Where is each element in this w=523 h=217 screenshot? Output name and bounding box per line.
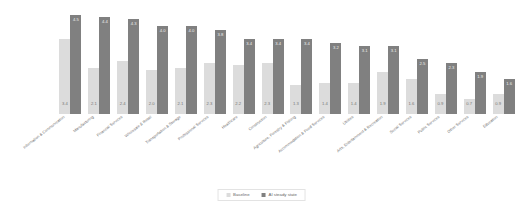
- bar-baseline[interactable]: 2.1: [175, 68, 186, 114]
- bar-value-label: 0.9: [495, 102, 501, 106]
- bar-group: 2.14.0: [172, 8, 201, 114]
- bar-ai-steady-state[interactable]: 1.9: [475, 72, 486, 114]
- bar-wrapper: 0.9: [493, 8, 504, 114]
- bar-ai-steady-state[interactable]: 4.0: [157, 26, 168, 114]
- bar-value-label: 3.4: [275, 42, 281, 46]
- bar-value-label: 1.6: [506, 82, 512, 86]
- bar-wrapper: 2.5: [417, 8, 428, 114]
- bar-value-label: 4.0: [160, 29, 166, 33]
- bar-baseline[interactable]: 2.3: [262, 63, 273, 114]
- bar-ai-steady-state[interactable]: 3.2: [330, 43, 341, 114]
- grouped-bar-chart: 3.44.52.14.42.44.32.04.02.14.02.33.82.23…: [0, 0, 523, 217]
- bar-baseline[interactable]: 0.7: [464, 99, 475, 114]
- bar-value-label: 0.9: [437, 102, 443, 106]
- bar-group: 2.44.3: [114, 8, 143, 114]
- bar-baseline[interactable]: 2.1: [88, 68, 99, 114]
- bar-wrapper: 4.0: [186, 8, 197, 114]
- bar-baseline[interactable]: 3.4: [59, 39, 70, 114]
- bar-wrapper: 2.2: [233, 8, 244, 114]
- bar-value-label: 4.0: [189, 29, 195, 33]
- bar-ai-steady-state[interactable]: 3.4: [273, 39, 284, 114]
- bar-ai-steady-state[interactable]: 4.4: [99, 17, 110, 114]
- legend-swatch-icon: [226, 193, 230, 197]
- bar-value-label: 2.3: [448, 66, 454, 70]
- legend-label: AI steady state: [269, 193, 297, 197]
- bar-ai-steady-state[interactable]: 4.3: [128, 19, 139, 114]
- axis-label-cell: Education: [489, 114, 518, 172]
- bar-wrapper: 3.2: [330, 8, 341, 114]
- bar-value-label: 1.4: [351, 102, 357, 106]
- bar-ai-steady-state[interactable]: 4.0: [186, 26, 197, 114]
- bar-value-label: 2.3: [206, 102, 212, 106]
- bar-group: 2.04.0: [143, 8, 172, 114]
- bar-baseline[interactable]: 1.3: [290, 85, 301, 114]
- legend-item[interactable]: Baseline: [226, 193, 249, 197]
- bar-group: 3.44.5: [56, 8, 85, 114]
- legend-label: Baseline: [233, 193, 249, 197]
- bar-value-label: 2.2: [235, 102, 241, 106]
- bar-value-label: 2.5: [420, 62, 426, 66]
- legend-swatch-icon: [262, 193, 266, 197]
- bar-baseline[interactable]: 0.9: [493, 94, 504, 114]
- bar-group: 1.62.5: [403, 8, 432, 114]
- bar-ai-steady-state[interactable]: 3.1: [388, 46, 399, 114]
- bar-ai-steady-state[interactable]: 4.5: [70, 15, 81, 114]
- bar-value-label: 3.1: [362, 49, 368, 53]
- bar-value-label: 3.1: [391, 49, 397, 53]
- bar-wrapper: 3.4: [273, 8, 284, 114]
- bar-wrapper: 4.0: [157, 8, 168, 114]
- bar-wrapper: 3.8: [215, 8, 226, 114]
- bar-baseline[interactable]: 2.0: [146, 70, 157, 114]
- bar-ai-steady-state[interactable]: 2.3: [446, 63, 457, 114]
- bar-ai-steady-state[interactable]: 2.5: [417, 59, 428, 114]
- bar-wrapper: 2.1: [175, 8, 186, 114]
- bar-wrapper: 2.0: [146, 8, 157, 114]
- bar-baseline[interactable]: 1.4: [319, 83, 330, 114]
- bar-value-label: 2.3: [264, 102, 270, 106]
- bar-baseline[interactable]: 1.6: [406, 79, 417, 114]
- bar-baseline[interactable]: 2.4: [117, 61, 128, 114]
- bar-wrapper: 3.4: [59, 8, 70, 114]
- bar-ai-steady-state[interactable]: 3.1: [359, 46, 370, 114]
- bar-ai-steady-state[interactable]: 3.4: [301, 39, 312, 114]
- bar-ai-steady-state[interactable]: 1.6: [504, 79, 515, 114]
- category-axis-labels: Information & CommunicationManufacturing…: [56, 114, 518, 172]
- bar-baseline[interactable]: 1.9: [377, 72, 388, 114]
- bar-wrapper: 1.4: [348, 8, 359, 114]
- bar-wrapper: 4.4: [99, 8, 110, 114]
- bar-group: 1.43.2: [316, 8, 345, 114]
- bar-wrapper: 0.9: [435, 8, 446, 114]
- bar-group: 2.33.8: [200, 8, 229, 114]
- category-label: Information & Communication: [23, 115, 66, 150]
- bar-group: 0.91.6: [489, 8, 518, 114]
- bar-wrapper: 3.1: [388, 8, 399, 114]
- bar-wrapper: 2.4: [117, 8, 128, 114]
- bar-group: 2.33.4: [258, 8, 287, 114]
- bar-wrapper: 1.9: [475, 8, 486, 114]
- bar-wrapper: 0.7: [464, 8, 475, 114]
- bar-group: 2.14.4: [85, 8, 114, 114]
- bar-value-label: 4.4: [102, 20, 108, 24]
- bar-value-label: 1.3: [293, 102, 299, 106]
- bar-value-label: 1.9: [477, 75, 483, 79]
- bar-value-label: 1.9: [380, 102, 386, 106]
- bar-value-label: 3.8: [217, 33, 223, 37]
- bar-value-label: 4.5: [73, 18, 79, 22]
- bar-wrapper: 3.4: [244, 8, 255, 114]
- bar-baseline[interactable]: 1.4: [348, 83, 359, 114]
- bar-value-label: 2.1: [91, 102, 97, 106]
- legend-item[interactable]: AI steady state: [262, 193, 297, 197]
- bar-baseline[interactable]: 2.3: [204, 63, 215, 114]
- bar-wrapper: 1.6: [504, 8, 515, 114]
- chart-legend: BaselineAI steady state: [217, 189, 306, 201]
- bar-baseline[interactable]: 2.2: [233, 65, 244, 114]
- bar-group: 0.71.9: [460, 8, 489, 114]
- bar-value-label: 3.4: [246, 42, 252, 46]
- bar-ai-steady-state[interactable]: 3.4: [244, 39, 255, 114]
- plot-area: 3.44.52.14.42.44.32.04.02.14.02.33.82.23…: [56, 8, 518, 114]
- bar-ai-steady-state[interactable]: 3.8: [215, 30, 226, 114]
- bar-wrapper: 1.3: [290, 8, 301, 114]
- axis-label-cell: Accommodation & Food Services: [316, 114, 345, 172]
- bar-baseline[interactable]: 0.9: [435, 94, 446, 114]
- bar-wrapper: 3.4: [301, 8, 312, 114]
